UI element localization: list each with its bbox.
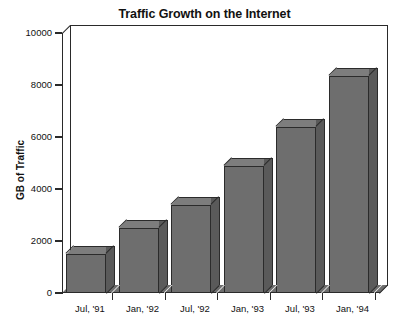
bar-edge xyxy=(337,68,377,69)
chart-title: Traffic Growth on the Internet xyxy=(0,7,409,21)
x-axis-baseline xyxy=(62,292,380,293)
bar-chart-figure: Traffic Growth on the Internet GB of Tra… xyxy=(0,0,409,334)
x-axis-tick xyxy=(165,293,166,300)
y-axis-tick xyxy=(55,136,62,137)
x-axis-tick-label: Jan, '94 xyxy=(318,303,388,314)
bar-edge xyxy=(114,246,115,285)
y-axis-tick xyxy=(55,240,62,241)
bar-front-face xyxy=(171,205,211,293)
bar xyxy=(224,158,272,293)
bar-edge xyxy=(232,158,272,159)
x-axis-tick xyxy=(375,293,376,300)
y-axis-tick-label: 10000 xyxy=(2,28,52,38)
bar xyxy=(66,246,114,293)
y-axis-tick xyxy=(55,188,62,189)
y-axis-spine xyxy=(62,33,63,294)
bar-edge xyxy=(272,158,273,285)
bar-front-face xyxy=(66,254,106,293)
bar-edge xyxy=(284,119,324,120)
y-axis-tick-label: 6000 xyxy=(2,132,52,142)
bar xyxy=(119,220,167,293)
bar-front-face xyxy=(329,76,369,293)
y-axis-tick xyxy=(55,32,62,33)
bar-edge xyxy=(74,246,114,247)
plot-backwall-top-edge xyxy=(70,25,388,26)
bar-edge xyxy=(324,119,325,285)
bar xyxy=(329,68,377,293)
bar-edge xyxy=(179,197,219,198)
bar-edge xyxy=(377,68,378,285)
y-axis-tick-label: 2000 xyxy=(2,236,52,246)
bar xyxy=(171,197,219,293)
y-axis-tick xyxy=(55,292,62,293)
x-axis-tick xyxy=(112,293,113,300)
y-axis-tick xyxy=(55,84,62,85)
bar-edge xyxy=(219,197,220,285)
y-axis-tick-label: 8000 xyxy=(2,80,52,90)
bar-front-face xyxy=(224,166,264,293)
y-axis-tick-label: 4000 xyxy=(2,184,52,194)
x-axis-tick xyxy=(322,293,323,300)
x-axis-tick xyxy=(217,293,218,300)
bar-front-face xyxy=(276,127,316,293)
bar xyxy=(276,119,324,293)
plot-backwall-right-edge xyxy=(387,25,388,286)
bar-front-face xyxy=(119,228,159,293)
bar-edge xyxy=(127,220,167,221)
y-axis-tick-label: 0 xyxy=(2,288,52,298)
bar-edge xyxy=(167,220,168,285)
x-axis-tick xyxy=(270,293,271,300)
